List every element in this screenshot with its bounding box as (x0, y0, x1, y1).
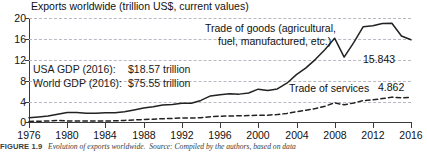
x-tick-label-1976: 1976 (8, 129, 50, 141)
x-tick-label-2016: 2016 (390, 129, 427, 141)
gdp-note-block: USA GDP (2016): $18.57 trillion World GD… (33, 62, 190, 90)
figure-caption: FIGURE 1.9 Evolution of exports worldwid… (0, 142, 416, 151)
gdp-note-usa: USA GDP (2016): $18.57 trillion (33, 62, 190, 76)
y-tick-label-20: 20 (2, 13, 26, 23)
x-tick-label-1980: 1980 (46, 129, 88, 141)
x-tick-label-2008: 2008 (314, 129, 356, 141)
x-tick-mark-2016 (411, 123, 412, 128)
y-tick-label-12: 12 (2, 55, 26, 65)
annotation-goods-line1: Trade of goods (agricultural, (205, 22, 336, 34)
annotation-goods-line2: fuel, manufactured, etc.) (205, 35, 336, 48)
gdp-note-world-label: World GDP (2016): (33, 76, 128, 90)
gdp-note-world-value: $75.55 trillion (128, 76, 190, 90)
x-tick-mark-1976 (29, 123, 30, 128)
gdp-note-world: World GDP (2016): $75.55 trillion (33, 76, 190, 90)
x-tick-label-2000: 2000 (237, 129, 279, 141)
x-tick-mark-1992 (182, 123, 183, 128)
x-tick-label-2012: 2012 (352, 129, 394, 141)
gdp-note-usa-value: $18.57 trillion (128, 62, 190, 76)
x-tick-mark-1996 (220, 123, 221, 128)
annotation-trade-of-goods: Trade of goods (agricultural, fuel, manu… (205, 22, 336, 47)
value-label-goods: 15.843 (363, 53, 395, 65)
x-tick-label-1988: 1988 (123, 129, 165, 141)
x-tick-label-1992: 1992 (161, 129, 203, 141)
x-tick-mark-1988 (144, 123, 145, 128)
annotation-trade-of-services: Trade of services (289, 82, 369, 95)
y-tick-label-0: 0 (2, 117, 26, 127)
y-tick-label-4: 4 (2, 97, 26, 107)
line-trade-of-services (29, 97, 411, 121)
x-tick-mark-1980 (67, 123, 68, 128)
gdp-note-usa-label: USA GDP (2016): (33, 62, 128, 76)
x-tick-label-2004: 2004 (276, 129, 318, 141)
x-tick-mark-2004 (297, 123, 298, 128)
value-label-services: 4.862 (378, 81, 404, 93)
x-tick-mark-2012 (373, 123, 374, 128)
chart-title: Exports worldwide (trillion US$, current… (31, 0, 249, 13)
x-tick-label-1984: 1984 (84, 129, 126, 141)
x-tick-mark-1984 (105, 123, 106, 128)
figure-caption-number: FIGURE 1.9 (0, 142, 42, 151)
x-tick-mark-2008 (335, 123, 336, 128)
figure-caption-title: Evolution of exports worldwide. (48, 142, 145, 151)
x-tick-mark-2000 (258, 123, 259, 128)
y-tick-label-16: 16 (2, 34, 26, 44)
figure-caption-source: Source: Compiled by the authors, based o… (149, 142, 296, 151)
y-tick-label-8: 8 (2, 76, 26, 86)
x-tick-label-1996: 1996 (199, 129, 241, 141)
